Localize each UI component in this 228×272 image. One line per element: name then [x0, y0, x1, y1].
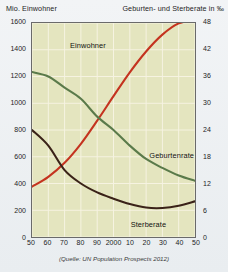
left-axis-title: Mio. Einwohner [6, 4, 57, 13]
x-axis-tick: 80 [72, 239, 90, 246]
x-axis-tick: 2000 [105, 239, 123, 246]
y2-axis-tick: 6 [203, 207, 207, 214]
plot-area: Einwohner Geburtenrate Sterberate [31, 22, 196, 238]
x-axis-tick: 90 [88, 239, 106, 246]
y-axis-tick: 600 [14, 153, 26, 160]
y2-axis-tick: 42 [203, 45, 211, 52]
x-axis-tick: 70 [55, 239, 73, 246]
y-axis-tick: 1200 [10, 72, 26, 79]
y2-axis-tick: 24 [203, 126, 211, 133]
x-axis-tick: 60 [39, 239, 57, 246]
y2-axis-tick: 12 [203, 180, 211, 187]
x-axis-ticks: 506070809020001020304050 [31, 239, 196, 251]
y2-axis-tick: 48 [203, 18, 211, 25]
y-axis-tick: 1400 [10, 45, 26, 52]
x-axis-tick: 20 [138, 239, 156, 246]
series-label-geburtenrate: Geburtenrate [149, 151, 194, 160]
x-axis-tick: 50 [187, 239, 205, 246]
y2-axis-tick: 18 [203, 153, 211, 160]
y2-axis-tick: 36 [203, 72, 211, 79]
y-axis-tick: 400 [14, 180, 26, 187]
y-axis-tick: 1000 [10, 99, 26, 106]
x-axis-tick: 30 [154, 239, 172, 246]
x-axis-tick: 10 [121, 239, 139, 246]
chart-figure: Mio. Einwohner Geburten- und Sterberate … [0, 0, 228, 272]
y-axis-tick: 800 [14, 126, 26, 133]
series-label-einwohner: Einwohner [70, 41, 106, 50]
y2-axis-tick: 30 [203, 99, 211, 106]
right-axis-title: Geburten- und Sterberate in ‰ [122, 4, 224, 13]
source-note: (Quelle: UN Population Prospects 2012) [0, 255, 228, 262]
series-lines [32, 23, 195, 237]
x-axis-tick: 50 [22, 239, 40, 246]
right-axis-ticks: 0612182430364248 [199, 22, 227, 238]
series-label-sterberate: Sterberate [131, 220, 167, 229]
y-axis-tick: 200 [14, 207, 26, 214]
y-axis-tick: 1600 [10, 18, 26, 25]
x-axis-tick: 40 [171, 239, 189, 246]
left-axis-ticks: 02004006008001000120014001600 [0, 22, 28, 238]
